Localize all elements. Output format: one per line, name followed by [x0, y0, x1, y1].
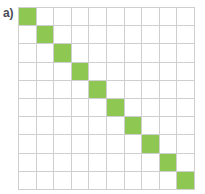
- matrix-cell-empty: [177, 154, 194, 171]
- matrix-cell-empty: [125, 81, 142, 98]
- matrix-cell-empty: [72, 8, 89, 25]
- matrix-cell-empty: [107, 81, 124, 98]
- matrix-cell-empty: [19, 81, 36, 98]
- matrix-cell-empty: [142, 154, 159, 171]
- matrix-cell-empty: [89, 117, 106, 134]
- matrix-cell-empty: [89, 135, 106, 152]
- matrix-cell-empty: [125, 8, 142, 25]
- matrix-cell-filled: [125, 117, 142, 134]
- matrix-cell-empty: [89, 26, 106, 43]
- matrix-cell-empty: [177, 99, 194, 116]
- matrix-cell-filled: [19, 8, 36, 25]
- matrix-cell-empty: [177, 117, 194, 134]
- matrix-cell-empty: [89, 44, 106, 61]
- panel-label: a): [3, 7, 13, 20]
- matrix-cell-empty: [72, 99, 89, 116]
- matrix-heatmap-grid: [18, 7, 195, 190]
- matrix-cell-empty: [19, 135, 36, 152]
- matrix-cell-empty: [107, 135, 124, 152]
- matrix-cell-empty: [37, 81, 54, 98]
- figure-panel: a): [0, 0, 205, 194]
- matrix-cell-empty: [125, 154, 142, 171]
- matrix-cell-empty: [37, 99, 54, 116]
- matrix-cell-empty: [19, 26, 36, 43]
- matrix-cell-empty: [142, 172, 159, 189]
- matrix-cell-empty: [107, 154, 124, 171]
- matrix-cell-empty: [160, 8, 177, 25]
- matrix-cell-empty: [72, 135, 89, 152]
- matrix-cell-empty: [37, 172, 54, 189]
- matrix-cell-empty: [72, 26, 89, 43]
- matrix-cell-filled: [37, 26, 54, 43]
- matrix-cell-filled: [54, 44, 71, 61]
- matrix-cell-empty: [54, 135, 71, 152]
- matrix-cell-empty: [125, 172, 142, 189]
- matrix-cell-empty: [107, 44, 124, 61]
- matrix-cell-empty: [19, 99, 36, 116]
- matrix-cell-empty: [37, 8, 54, 25]
- matrix-cell-empty: [125, 99, 142, 116]
- matrix-cell-empty: [177, 8, 194, 25]
- matrix-cell-empty: [160, 135, 177, 152]
- matrix-cell-empty: [107, 63, 124, 80]
- matrix-cell-empty: [160, 81, 177, 98]
- matrix-cell-empty: [19, 44, 36, 61]
- matrix-cell-empty: [160, 172, 177, 189]
- matrix-cell-filled: [89, 81, 106, 98]
- matrix-cell-empty: [107, 117, 124, 134]
- matrix-cell-empty: [177, 81, 194, 98]
- matrix-cell-empty: [37, 135, 54, 152]
- matrix-cell-empty: [177, 26, 194, 43]
- matrix-cell-empty: [142, 117, 159, 134]
- matrix-cell-empty: [142, 26, 159, 43]
- matrix-cell-empty: [160, 63, 177, 80]
- matrix-cell-empty: [54, 172, 71, 189]
- matrix-cell-filled: [107, 99, 124, 116]
- matrix-cell-empty: [177, 63, 194, 80]
- matrix-cell-empty: [107, 26, 124, 43]
- matrix-cell-empty: [54, 81, 71, 98]
- matrix-cell-empty: [160, 117, 177, 134]
- matrix-cell-empty: [54, 26, 71, 43]
- matrix-cell-empty: [125, 26, 142, 43]
- matrix-cell-empty: [54, 63, 71, 80]
- matrix-cell-empty: [72, 154, 89, 171]
- matrix-cell-empty: [37, 154, 54, 171]
- matrix-cell-empty: [142, 8, 159, 25]
- matrix-cell-empty: [142, 63, 159, 80]
- matrix-cell-empty: [19, 172, 36, 189]
- matrix-cell-empty: [160, 26, 177, 43]
- matrix-cell-empty: [89, 172, 106, 189]
- matrix-cell-filled: [177, 172, 194, 189]
- matrix-cell-empty: [142, 81, 159, 98]
- matrix-cell-empty: [142, 44, 159, 61]
- matrix-cell-filled: [142, 135, 159, 152]
- matrix-cell-empty: [89, 154, 106, 171]
- matrix-cell-empty: [72, 44, 89, 61]
- matrix-cell-empty: [54, 154, 71, 171]
- matrix-cell-empty: [107, 172, 124, 189]
- matrix-cell-empty: [107, 8, 124, 25]
- matrix-cell-empty: [54, 99, 71, 116]
- matrix-cell-empty: [89, 99, 106, 116]
- matrix-cell-empty: [72, 81, 89, 98]
- matrix-cell-empty: [54, 8, 71, 25]
- matrix-cell-empty: [72, 117, 89, 134]
- matrix-cell-empty: [72, 172, 89, 189]
- matrix-cell-empty: [54, 117, 71, 134]
- matrix-cell-empty: [19, 154, 36, 171]
- matrix-cell-empty: [125, 63, 142, 80]
- matrix-cell-empty: [37, 63, 54, 80]
- matrix-cell-empty: [177, 44, 194, 61]
- matrix-cell-empty: [177, 135, 194, 152]
- matrix-cell-empty: [125, 44, 142, 61]
- matrix-cell-empty: [89, 63, 106, 80]
- matrix-cell-empty: [160, 99, 177, 116]
- matrix-cell-empty: [125, 135, 142, 152]
- matrix-cell-filled: [72, 63, 89, 80]
- matrix-cell-empty: [19, 63, 36, 80]
- matrix-cell-empty: [37, 44, 54, 61]
- matrix-cell-empty: [160, 44, 177, 61]
- matrix-cell-filled: [160, 154, 177, 171]
- matrix-cell-empty: [142, 99, 159, 116]
